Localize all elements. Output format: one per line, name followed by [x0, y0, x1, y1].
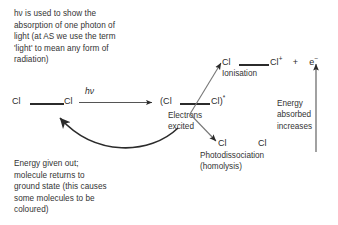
- photodissociation-branch-arrow: [190, 114, 216, 141]
- ionisation-branch-arrow: [190, 63, 221, 114]
- arrow-layer: [0, 0, 338, 225]
- diagram-canvas: hν is used to show the absorption of one…: [0, 0, 338, 225]
- energy-released-curved-arrow: [60, 118, 178, 148]
